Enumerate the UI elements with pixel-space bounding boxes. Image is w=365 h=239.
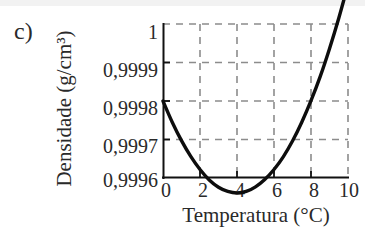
density-curve xyxy=(163,0,348,193)
plot-area xyxy=(0,0,365,239)
grid-horizontal-group xyxy=(163,24,348,140)
figure-panel-c: c) Densidade (g/cm³) Temperatura (°C) 1 … xyxy=(0,0,365,239)
